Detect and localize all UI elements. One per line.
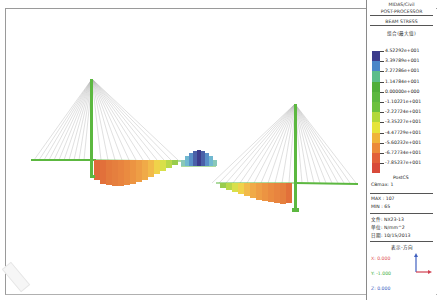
file-name: 文件: NX23-13 xyxy=(371,216,404,222)
separator xyxy=(370,15,433,16)
separator xyxy=(370,193,433,194)
bridge-stress-diagram xyxy=(6,9,366,294)
view-x: X: 0.000 xyxy=(371,256,390,261)
right-tower xyxy=(294,104,297,208)
center-stress-bars xyxy=(181,150,217,166)
model-viewport[interactable] xyxy=(6,9,366,294)
cb-label: CBmax: 1 xyxy=(371,182,393,187)
right-cables xyxy=(212,104,356,183)
view-direction-title: 表示-方向 xyxy=(391,244,413,250)
left-stress-bars xyxy=(94,160,178,186)
right-stress-bars xyxy=(220,183,292,204)
view-y: Y: -1.000 xyxy=(371,271,391,276)
app-subtitle: POST-PROCESSOR xyxy=(367,8,436,15)
separator xyxy=(370,213,433,214)
left-tower-base xyxy=(90,175,95,178)
legend-panel: MIDAS/Civil POST-PROCESSOR BEAM STRESS 组… xyxy=(366,0,436,300)
left-tower xyxy=(90,79,93,175)
date-label: 日期: 10/15/2013 xyxy=(371,232,411,238)
component-label: 组合(最大值) xyxy=(367,30,436,37)
axis-triad-icon xyxy=(411,252,433,276)
right-backspan-deck xyxy=(295,183,358,184)
separator xyxy=(370,25,433,26)
max-value: MAX : 107 xyxy=(371,196,395,201)
view-z: Z: 0.000 xyxy=(371,286,390,291)
result-type: BEAM STRESS xyxy=(367,18,436,25)
unit-label: 单位: N/mm^2 xyxy=(371,224,405,230)
app-name: MIDAS/Civil xyxy=(367,1,436,8)
min-value: MIN : 65 xyxy=(371,204,390,209)
stage-label: PostCS xyxy=(393,175,409,180)
separator xyxy=(370,241,433,242)
right-tower-base xyxy=(292,208,299,212)
left-cables xyxy=(34,79,178,160)
